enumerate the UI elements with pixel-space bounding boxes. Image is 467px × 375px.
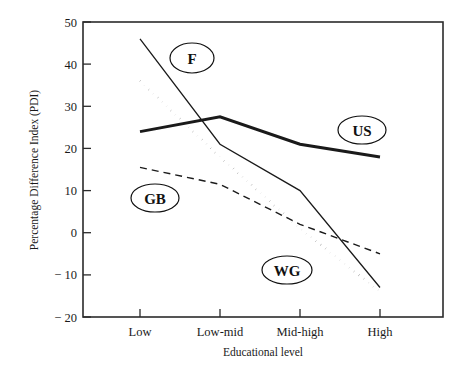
chart-figure: 50 40 30 20 10 0 − 10 − 20 Low Low-mid M… <box>0 0 467 375</box>
y-tick-label: − 20 <box>54 311 77 325</box>
x-tick-label-high: High <box>368 325 394 339</box>
y-tick-label: 30 <box>65 100 78 114</box>
x-tick-label-low-mid: Low-mid <box>197 325 244 339</box>
y-tick-label: 10 <box>65 184 78 198</box>
y-tick-label: 0 <box>71 226 77 240</box>
series-annotation-us: US <box>338 116 386 144</box>
y-tick-label: 20 <box>65 142 78 156</box>
x-axis-tick-labels: Low Low-mid Mid-high High <box>129 325 394 339</box>
y-axis-tick-labels: 50 40 30 20 10 0 − 10 − 20 <box>54 16 77 325</box>
x-axis-title: Educational level <box>223 346 303 358</box>
x-tick-label-mid-high: Mid-high <box>276 325 324 339</box>
series-label-wg: WG <box>274 263 301 279</box>
y-tick-label: 40 <box>65 58 78 72</box>
series-annotation-f: F <box>170 43 214 73</box>
series-annotation-gb: GB <box>131 184 179 212</box>
series-label-gb: GB <box>144 191 166 207</box>
y-tick-label: 50 <box>65 16 78 30</box>
y-tick-label: − 10 <box>54 268 77 282</box>
series-line-f <box>140 39 380 288</box>
series-lines <box>140 39 380 292</box>
series-line-wg <box>140 81 380 292</box>
y-axis-ticks <box>83 22 91 317</box>
series-line-gb <box>140 167 380 253</box>
y-axis-title: Percentage Difference Index (PDI) <box>28 90 41 251</box>
series-label-f: F <box>187 51 196 67</box>
series-label-us: US <box>352 123 371 139</box>
x-tick-label-low: Low <box>129 325 152 339</box>
line-chart-svg: 50 40 30 20 10 0 − 10 − 20 Low Low-mid M… <box>0 0 467 375</box>
series-annotation-wg: WG <box>262 256 312 284</box>
x-axis-ticks <box>140 309 380 317</box>
